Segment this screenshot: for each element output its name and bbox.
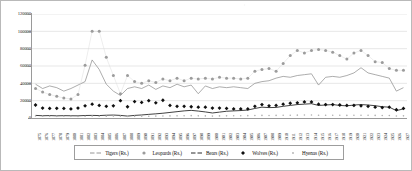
x-tick-label: 1906 (251, 119, 258, 142)
x-tick-label: 1881 (74, 119, 81, 142)
plot-svg (32, 14, 407, 118)
legend-marker-icon (138, 150, 150, 156)
x-tick-label: 1896 (181, 119, 188, 142)
legend-marker-icon (191, 150, 203, 156)
legend-marker-icon (287, 150, 299, 156)
x-tick-label: 1880 (67, 119, 74, 142)
y-tick-label: 0 (1, 115, 31, 120)
x-tick-label: 1877 (46, 119, 53, 142)
x-tick-label: 1923 (372, 119, 379, 142)
x-tick-label: 1910 (280, 119, 287, 142)
plot-area (32, 14, 407, 118)
x-tick-label: 1893 (159, 119, 166, 142)
x-tick-label: 1902 (223, 119, 230, 142)
y-axis-labels: 020000400006000080000100000120000 (1, 1, 32, 171)
legend-label: Hyenas (Rs.) (302, 150, 328, 156)
x-tick-label: 1926 (393, 119, 400, 142)
x-tick-label: 1903 (230, 119, 237, 142)
x-tick-label: 1879 (60, 119, 67, 142)
y-tick-label: 40000 (1, 81, 31, 86)
x-tick-label: 1889 (131, 119, 138, 142)
x-axis-labels: 1875187618771878187918801881188218831884… (32, 119, 407, 142)
x-tick-label: 1924 (379, 119, 386, 142)
x-tick-label: 1920 (350, 119, 357, 142)
y-tick-label: 60000 (1, 63, 31, 68)
chart-figure: ¬ 020000400006000080000100000120000 1875… (0, 0, 412, 171)
legend-item-hyenas[interactable]: Hyenas (Rs.) (287, 150, 328, 156)
x-tick-label: 1898 (195, 119, 202, 142)
x-tick-label: 1876 (39, 119, 46, 142)
x-tick-label: 1887 (117, 119, 124, 142)
x-tick-label: 1916 (322, 119, 329, 142)
x-tick-label: 1884 (96, 119, 103, 142)
x-tick-label: 1901 (216, 119, 223, 142)
x-tick-label: 1914 (308, 119, 315, 142)
x-tick-label: 1875 (32, 119, 39, 142)
x-tick-label: 1915 (315, 119, 322, 142)
x-tick-label: 1883 (89, 119, 96, 142)
x-tick-label: 1886 (110, 119, 117, 142)
legend-label: Bears (Rs.) (206, 150, 228, 156)
x-tick-label: 1900 (209, 119, 216, 142)
x-tick-label: 1919 (343, 119, 350, 142)
x-tick-label: 1911 (287, 119, 294, 142)
x-tick-label: 1895 (174, 119, 181, 142)
x-tick-label: 1917 (329, 119, 336, 142)
legend-marker-icon (237, 150, 249, 156)
x-tick-label: 1894 (166, 119, 173, 142)
series-wolves-rs (34, 98, 406, 111)
legend-label: Tigers (Rs.) (105, 150, 128, 156)
x-tick-label: 1882 (82, 119, 89, 142)
legend-item-bears[interactable]: Bears (Rs.) (191, 150, 228, 156)
y-tick-label: 120000 (1, 11, 31, 16)
x-tick-label: 1899 (202, 119, 209, 142)
stray-mark: ¬ (242, 3, 247, 7)
legend-item-leopards[interactable]: Leopards (Rs.) (138, 150, 182, 156)
x-tick-label: 1904 (237, 119, 244, 142)
x-tick-label: 1908 (266, 119, 273, 142)
legend-label: Leopards (Rs.) (153, 150, 182, 156)
x-tick-label: 1905 (244, 119, 251, 142)
chart-legend: Tigers (Rs.)Leopards (Rs.)Bears (Rs.)Wol… (74, 145, 344, 160)
x-tick-label: 1907 (258, 119, 265, 142)
series-leopards-rs (34, 30, 405, 101)
x-tick-label: 1885 (103, 119, 110, 142)
x-tick-label: 1890 (138, 119, 145, 142)
x-tick-label: 1927 (400, 119, 407, 142)
x-tick-label: 1878 (53, 119, 60, 142)
x-tick-label: 1922 (365, 119, 372, 142)
legend-label: Wolves (Rs.) (252, 150, 278, 156)
x-tick-label: 1888 (124, 119, 131, 142)
y-tick-label: 80000 (1, 46, 31, 51)
x-tick-label: 1913 (301, 119, 308, 142)
x-tick-label: 1897 (188, 119, 195, 142)
legend-item-tigers[interactable]: Tigers (Rs.) (90, 150, 128, 156)
x-tick-label: 1912 (294, 119, 301, 142)
x-tick-label: 1918 (336, 119, 343, 142)
y-tick-label: 20000 (1, 98, 31, 103)
x-tick-label: 1925 (386, 119, 393, 142)
x-tick-label: 1892 (152, 119, 159, 142)
legend-item-wolves[interactable]: Wolves (Rs.) (237, 150, 278, 156)
legend-marker-icon (90, 150, 102, 156)
x-tick-label: 1891 (145, 119, 152, 142)
y-tick-label: 100000 (1, 29, 31, 34)
x-tick-label: 1921 (358, 119, 365, 142)
x-tick-label: 1909 (273, 119, 280, 142)
